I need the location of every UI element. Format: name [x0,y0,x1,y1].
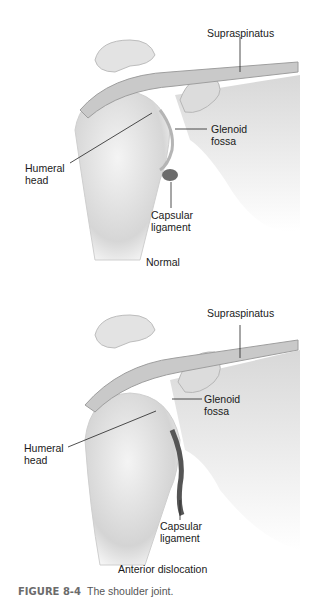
figure-title: The shoulder joint. [87,585,173,597]
figure-number: FIGURE 8-4 [18,586,81,597]
figure-caption: FIGURE 8-4The shoulder joint. [18,585,173,597]
panel-subtitle: Normal [146,256,180,268]
panel-anterior-dislocation: Supraspinatus Glenoid fossa Humeral head… [0,300,318,585]
shoulder-normal-illustration [0,0,318,300]
label-capsular-ligament: Capsular ligament [151,209,193,233]
label-glenoid-fossa: Glenoid fossa [204,393,240,417]
label-humeral-head: Humeral head [25,162,65,186]
label-glenoid-fossa: Glenoid fossa [211,123,247,147]
label-supraspinatus: Supraspinatus [207,307,274,319]
label-supraspinatus: Supraspinatus [207,27,274,39]
label-capsular-ligament: Capsular ligament [160,520,202,544]
panel-normal: Supraspinatus Glenoid fossa Humeral head… [0,0,318,300]
panel-subtitle: Anterior dislocation [118,563,207,575]
label-humeral-head: Humeral head [24,442,64,466]
